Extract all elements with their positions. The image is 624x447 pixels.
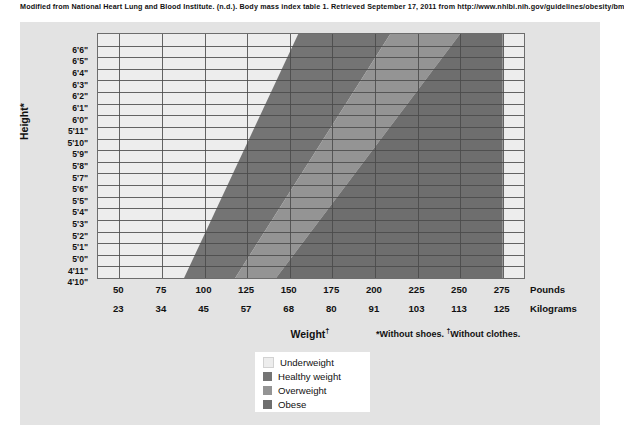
y-axis-tick-label: 6'0" <box>72 115 88 125</box>
bmi-category-bands <box>98 34 524 278</box>
x-axis-tick-kilograms: 45 <box>198 303 209 314</box>
y-axis-tick-label: 5'1" <box>72 242 88 252</box>
y-axis-tick-label: 5'4" <box>72 207 88 217</box>
y-axis-tick-label: 6'6" <box>72 45 88 55</box>
y-axis-tick-label: 6'4" <box>72 68 88 78</box>
y-axis-tick-label: 6'5" <box>72 56 88 66</box>
y-axis-tick-label: 5'9" <box>72 149 88 159</box>
legend: UnderweightHealthy weightOverweightObese <box>255 352 370 412</box>
x-axis-tick-pounds: 150 <box>281 284 297 295</box>
x-axis-tick-kilograms: 125 <box>494 303 510 314</box>
legend-swatch <box>263 386 272 395</box>
x-axis-tick-pounds: 250 <box>451 284 467 295</box>
x-axis-tick-kilograms: 113 <box>451 303 466 314</box>
y-axis-tick-label: 5'11" <box>68 126 88 136</box>
x-axis-unit-pounds: Pounds <box>530 284 565 295</box>
x-axis-tick-kilograms: 23 <box>113 303 124 314</box>
x-axis-tick-pounds: 275 <box>494 284 510 295</box>
x-axis-tick-pounds: 100 <box>195 284 211 295</box>
x-axis-tick-pounds: 225 <box>408 284 424 295</box>
legend-label: Underweight <box>280 357 334 368</box>
y-axis-tick-label: 5'10" <box>68 138 88 148</box>
x-axis-tick-kilograms: 68 <box>283 303 294 314</box>
y-axis-tick-label: 5'7" <box>72 173 88 183</box>
x-axis-unit-kilograms: Kilograms <box>530 303 577 314</box>
x-axis-tick-kilograms: 57 <box>241 303 252 314</box>
plot-area <box>97 33 525 279</box>
x-axis-tick-pounds: 50 <box>113 284 124 295</box>
x-axis-tick-pounds: 75 <box>156 284 167 295</box>
x-axis-tick-kilograms: 34 <box>156 303 167 314</box>
y-axis-tick-label: 6'3" <box>72 80 88 90</box>
legend-item: Healthy weight <box>263 370 364 383</box>
y-axis-labels: 6'6"6'5"6'4"6'3"6'2"6'1"6'0"5'11"5'10"5'… <box>20 33 92 277</box>
y-axis-tick-label: 4'10" <box>68 277 88 287</box>
x-axis-tick-kilograms: 80 <box>326 303 337 314</box>
y-axis-tick-label: 5'0" <box>72 254 88 264</box>
dagger-symbol: † <box>325 326 329 335</box>
x-axis-tick-kilograms: 103 <box>408 303 424 314</box>
source-citation: Modified from National Heart Lung and Bl… <box>20 2 600 12</box>
legend-swatch <box>263 357 274 368</box>
y-axis-tick-label: 5'8" <box>72 161 88 171</box>
y-axis-tick-label: 5'5" <box>72 196 88 206</box>
legend-item: Overweight <box>263 384 364 397</box>
y-axis-tick-label: 5'2" <box>72 231 88 241</box>
chart-panel: Height* 6'6"6'5"6'4"6'3"6'2"6'1"6'0"5'11… <box>20 22 600 425</box>
legend-swatch <box>263 372 272 381</box>
legend-item: Obese <box>263 398 364 411</box>
y-axis-tick-label: 4'11" <box>68 266 88 276</box>
bands-svg <box>98 34 524 278</box>
dagger-symbol: † <box>446 327 450 334</box>
legend-swatch <box>263 400 272 409</box>
x-axis-tick-pounds: 125 <box>238 284 254 295</box>
legend-label: Healthy weight <box>278 371 341 382</box>
legend-label: Obese <box>278 399 306 410</box>
y-axis-tick-label: 5'6" <box>72 184 88 194</box>
x-axis-tick-pounds: 200 <box>366 284 382 295</box>
y-axis-tick-label: 5'3" <box>72 219 88 229</box>
y-axis-tick-label: 6'1" <box>72 103 88 113</box>
x-axis-tick-pounds: 175 <box>323 284 339 295</box>
legend-label: Overweight <box>278 385 327 396</box>
x-axis-labels: 5023753410045125571506817580200912251032… <box>97 280 523 326</box>
legend-item: Underweight <box>263 356 364 369</box>
y-axis-tick-label: 6'2" <box>72 91 88 101</box>
x-axis-tick-kilograms: 91 <box>369 303 380 314</box>
footnotes: *Without shoes. †Without clothes. <box>376 327 520 339</box>
